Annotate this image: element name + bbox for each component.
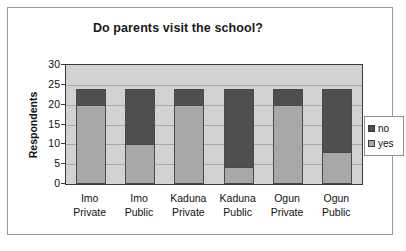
legend-label-no: no: [378, 123, 389, 134]
x-axis-tick-labels: ImoPrivateImoPublicKadunaPrivateKadunaPu…: [65, 188, 363, 228]
x-axis-label-kaduna-public: KadunaPublic: [210, 192, 266, 219]
legend-swatch-yes: [368, 140, 375, 147]
chart-title: Do parents visit the school?: [8, 21, 348, 35]
x-axis-label-line: Public: [308, 206, 364, 220]
bar-segment-yes[interactable]: [175, 105, 203, 183]
bar-ogun-public[interactable]: [322, 89, 352, 184]
bar-segment-no[interactable]: [77, 90, 105, 106]
x-axis-label-line: Ogun: [259, 192, 315, 206]
chart-legend: no yes: [364, 116, 404, 156]
x-axis-label-line: Imo: [111, 192, 167, 206]
x-axis-label-line: Kaduna: [210, 192, 266, 206]
bar-segment-yes[interactable]: [225, 167, 253, 183]
legend-item-yes: yes: [368, 136, 399, 151]
x-axis-label-line: Private: [259, 206, 315, 220]
x-axis-label-ogun-public: OgunPublic: [308, 192, 364, 219]
y-axis-tick-30: 30: [34, 58, 60, 70]
bar-kaduna-private[interactable]: [174, 89, 204, 184]
x-axis-label-line: Kaduna: [160, 192, 216, 206]
x-axis-label-line: Public: [210, 206, 266, 220]
bar-ogun-private[interactable]: [273, 89, 303, 184]
x-axis-label-line: Public: [111, 206, 167, 220]
x-axis-label-kaduna-private: KadunaPrivate: [160, 192, 216, 219]
legend-label-yes: yes: [378, 138, 394, 149]
x-axis-label-line: Private: [62, 206, 118, 220]
bar-segment-no[interactable]: [274, 90, 302, 106]
bar-segment-no[interactable]: [225, 90, 253, 168]
y-axis-tick-25: 25: [34, 78, 60, 90]
x-axis-label-line: Private: [160, 206, 216, 220]
y-axis-tick-5: 5: [34, 157, 60, 169]
bar-imo-private[interactable]: [76, 89, 106, 184]
chart-frame: Do parents visit the school? Respondents…: [7, 7, 393, 235]
y-axis-tick-10: 10: [34, 137, 60, 149]
x-axis-label-line: Ogun: [308, 192, 364, 206]
bar-segment-no[interactable]: [323, 90, 351, 152]
x-axis-label-line: Imo: [62, 192, 118, 206]
bar-segment-yes[interactable]: [323, 152, 351, 183]
y-axis-tick-20: 20: [34, 98, 60, 110]
x-axis-label-imo-public: ImoPublic: [111, 192, 167, 219]
y-axis-tick-0: 0: [34, 177, 60, 189]
bar-segment-no[interactable]: [126, 90, 154, 144]
bar-kaduna-public[interactable]: [224, 89, 254, 184]
bar-segment-no[interactable]: [175, 90, 203, 106]
bar-imo-public[interactable]: [125, 89, 155, 184]
bar-segment-yes[interactable]: [274, 105, 302, 183]
y-axis-tick-15: 15: [34, 118, 60, 130]
legend-item-no: no: [368, 121, 399, 136]
bar-series-group: [66, 65, 362, 184]
x-axis-label-ogun-private: OgunPrivate: [259, 192, 315, 219]
bar-segment-yes[interactable]: [126, 144, 154, 183]
plot-area: [65, 64, 363, 185]
x-axis-label-imo-private: ImoPrivate: [62, 192, 118, 219]
legend-swatch-no: [368, 125, 375, 132]
bar-segment-yes[interactable]: [77, 105, 105, 183]
